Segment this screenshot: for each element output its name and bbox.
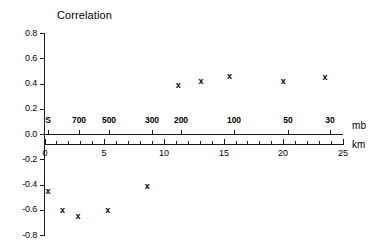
km-minor-tick-mark: [176, 141, 177, 144]
data-point-marker: x: [60, 205, 65, 214]
km-minor-tick-mark: [128, 141, 129, 144]
mb-tick-mark: [48, 130, 49, 134]
km-major-tick-mark: [45, 139, 46, 145]
km-minor-tick-mark: [307, 141, 308, 144]
km-minor-tick-mark: [92, 141, 93, 144]
km-minor-tick-mark: [331, 141, 332, 144]
chart-title: Correlation: [57, 10, 112, 21]
y-tick-label: 0.4: [8, 79, 37, 88]
data-point-marker: x: [105, 205, 110, 214]
y-tick-mark: [40, 210, 44, 211]
km-tick-label: 25: [338, 149, 348, 158]
km-minor-tick-mark: [212, 141, 213, 144]
km-tick-label: 5: [102, 149, 107, 158]
mb-unit-label: mb: [352, 121, 366, 131]
mb-axis-line: [44, 134, 343, 135]
km-minor-tick-mark: [56, 141, 57, 144]
y-tick-mark: [40, 109, 44, 110]
km-unit-label: km: [352, 140, 366, 150]
km-minor-tick-mark: [271, 141, 272, 144]
y-tick-label: 0.6: [8, 54, 37, 63]
mb-tick-mark: [330, 130, 331, 134]
y-tick-label: -0.6: [8, 205, 37, 214]
y-tick-label: -0.4: [8, 180, 37, 189]
mb-tick-label: 30: [325, 116, 334, 125]
y-tick-mark: [40, 58, 44, 59]
y-tick-mark: [40, 235, 44, 236]
km-major-tick-mark: [224, 139, 225, 145]
km-major-tick-mark: [283, 139, 284, 145]
data-point-marker: x: [75, 212, 80, 221]
km-minor-tick-mark: [188, 141, 189, 144]
data-point-marker: x: [323, 73, 328, 82]
y-tick-mark: [40, 159, 44, 160]
mb-tick-label: S: [45, 116, 51, 125]
km-tick-label: 10: [159, 149, 169, 158]
y-tick-label: -0.2: [8, 155, 37, 164]
km-minor-tick-mark: [247, 141, 248, 144]
mb-tick-label: 300: [145, 116, 159, 125]
km-major-tick-mark: [164, 139, 165, 145]
km-minor-tick-mark: [116, 141, 117, 144]
y-tick-label: 0.8: [8, 29, 37, 38]
km-minor-tick-mark: [80, 141, 81, 144]
mb-tick-label: 100: [227, 116, 241, 125]
y-tick-mark: [40, 84, 44, 85]
data-point-marker: x: [145, 181, 150, 190]
correlation-scatter-figure: Correlation 0.80.60.40.20.0-0.2-0.4-0.6-…: [0, 0, 382, 250]
mb-tick-mark: [79, 130, 80, 134]
km-minor-tick-mark: [295, 141, 296, 144]
km-minor-tick-mark: [259, 141, 260, 144]
km-axis-line: [44, 144, 343, 145]
km-minor-tick-mark: [140, 141, 141, 144]
km-major-tick-mark: [104, 139, 105, 145]
y-tick-label: 0.2: [8, 104, 37, 113]
km-minor-tick-mark: [200, 141, 201, 144]
km-minor-tick-mark: [236, 141, 237, 144]
mb-tick-mark: [109, 130, 110, 134]
mb-tick-label: 500: [102, 116, 116, 125]
y-tick-label: -0.8: [8, 231, 37, 240]
y-tick-label: 0.0: [8, 130, 37, 139]
mb-tick-mark: [288, 130, 289, 134]
km-minor-tick-mark: [152, 141, 153, 144]
data-point-marker: x: [227, 71, 232, 80]
mb-tick-label: 200: [174, 116, 188, 125]
data-point-marker: x: [281, 76, 286, 85]
mb-tick-label: 50: [283, 116, 292, 125]
km-major-tick-mark: [343, 139, 344, 145]
data-point-marker: x: [46, 186, 51, 195]
km-tick-label: 0: [43, 149, 48, 158]
km-minor-tick-mark: [68, 141, 69, 144]
km-minor-tick-mark: [319, 141, 320, 144]
mb-tick-mark: [181, 130, 182, 134]
mb-tick-label: 700: [72, 116, 86, 125]
mb-tick-mark: [234, 130, 235, 134]
km-tick-label: 20: [278, 149, 288, 158]
y-tick-mark: [40, 33, 44, 34]
data-point-marker: x: [198, 76, 203, 85]
y-tick-mark: [40, 185, 44, 186]
km-tick-label: 15: [219, 149, 229, 158]
data-point-marker: x: [176, 80, 181, 89]
mb-tick-mark: [152, 130, 153, 134]
